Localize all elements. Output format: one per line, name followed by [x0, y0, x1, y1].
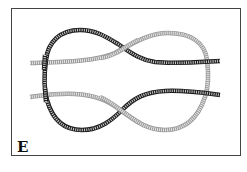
- knot-illustration: [0, 0, 247, 172]
- panel-label: E: [17, 138, 28, 156]
